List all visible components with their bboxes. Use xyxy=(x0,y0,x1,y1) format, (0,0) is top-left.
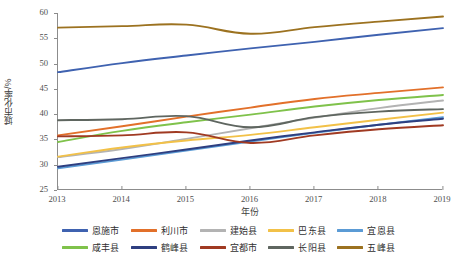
legend-row: 咸丰县鹤峰县宜都市长阳县五峰县 xyxy=(62,241,396,254)
x-tick-mark xyxy=(314,186,315,190)
x-tick-label: 2014 xyxy=(113,194,130,204)
x-tick-label: 2019 xyxy=(433,194,450,204)
urbanization-rate-line-chart: 城市化率/% 6055504540353025 2013201420152016… xyxy=(0,0,457,273)
legend-swatch-icon xyxy=(62,246,88,249)
y-tick-label: 40 xyxy=(39,108,48,118)
legend-swatch-icon xyxy=(131,246,157,249)
x-tick-mark xyxy=(121,186,122,190)
x-tick-mark xyxy=(378,186,379,190)
legend-row: 恩施市利川市建始县巴东县宜恩县 xyxy=(62,224,396,237)
legend-swatch-icon xyxy=(62,229,88,232)
y-tick-label: 60 xyxy=(39,7,48,17)
legend-label: 咸丰县 xyxy=(92,241,120,254)
chart-legend: 恩施市利川市建始县巴东县宜恩县咸丰县鹤峰县宜都市长阳县五峰县 xyxy=(0,224,457,254)
y-tick-label: 25 xyxy=(39,184,48,194)
x-tick: 2014 xyxy=(113,190,130,204)
legend-swatch-icon xyxy=(200,229,226,232)
y-tick-label: 35 xyxy=(39,133,48,143)
x-tick-mark xyxy=(57,186,58,190)
legend-item-建始县[interactable]: 建始县 xyxy=(200,224,258,237)
x-tick: 2013 xyxy=(48,190,65,204)
legend-item-长阳县[interactable]: 长阳县 xyxy=(268,241,326,254)
x-tick-label: 2017 xyxy=(305,194,322,204)
y-tick: 35 xyxy=(0,139,57,140)
legend-item-宜都市[interactable]: 宜都市 xyxy=(200,241,258,254)
legend-label: 鹤峰县 xyxy=(161,241,189,254)
legend-label: 巴东县 xyxy=(298,224,326,237)
legend-item-五峰县[interactable]: 五峰县 xyxy=(337,241,395,254)
legend-swatch-icon xyxy=(268,246,294,249)
x-axis-title: 年份 xyxy=(57,205,442,218)
legend-swatch-icon xyxy=(200,246,226,249)
plot-area xyxy=(57,13,442,190)
x-tick: 2017 xyxy=(305,190,322,204)
y-tick: 40 xyxy=(0,114,57,115)
x-tick-label: 2013 xyxy=(48,194,65,204)
legend-label: 利川市 xyxy=(161,224,189,237)
y-tick: 55 xyxy=(0,38,57,39)
legend-swatch-icon xyxy=(131,229,157,232)
x-tick-label: 2015 xyxy=(177,194,194,204)
y-tick: 30 xyxy=(0,165,57,166)
series-line-恩施市 xyxy=(58,28,443,72)
legend-label: 宜恩县 xyxy=(367,224,395,237)
x-tick: 2019 xyxy=(433,190,450,204)
legend-swatch-icon xyxy=(337,246,363,249)
legend-label: 长阳县 xyxy=(298,241,326,254)
legend-item-利川市[interactable]: 利川市 xyxy=(131,224,189,237)
series-lines xyxy=(58,13,443,190)
legend-item-巴东县[interactable]: 巴东县 xyxy=(268,224,326,237)
legend-item-鹤峰县[interactable]: 鹤峰县 xyxy=(131,241,189,254)
series-line-五峰县 xyxy=(58,17,443,34)
y-tick-label: 50 xyxy=(39,58,48,68)
x-tick-label: 2016 xyxy=(241,194,258,204)
legend-label: 宜都市 xyxy=(230,241,258,254)
y-tick: 45 xyxy=(0,89,57,90)
y-tick: 60 xyxy=(0,13,57,14)
legend-swatch-icon xyxy=(268,229,294,232)
x-tick: 2016 xyxy=(241,190,258,204)
x-tick-mark xyxy=(250,186,251,190)
legend-label: 五峰县 xyxy=(367,241,395,254)
y-tick-label: 30 xyxy=(39,159,48,169)
x-tick: 2015 xyxy=(177,190,194,204)
x-tick-mark xyxy=(442,186,443,190)
y-tick-label: 45 xyxy=(39,83,48,93)
x-tick-mark xyxy=(185,186,186,190)
legend-item-咸丰县[interactable]: 咸丰县 xyxy=(62,241,120,254)
legend-label: 恩施市 xyxy=(92,224,120,237)
legend-label: 建始县 xyxy=(230,224,258,237)
y-tick-label: 55 xyxy=(39,32,48,42)
x-tick-label: 2018 xyxy=(369,194,386,204)
legend-item-宜恩县[interactable]: 宜恩县 xyxy=(337,224,395,237)
y-tick: 50 xyxy=(0,64,57,65)
legend-item-恩施市[interactable]: 恩施市 xyxy=(62,224,120,237)
x-tick: 2018 xyxy=(369,190,386,204)
legend-swatch-icon xyxy=(337,229,363,232)
